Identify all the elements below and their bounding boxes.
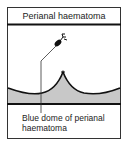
- haematoma-icon: [53, 34, 67, 48]
- label-line-1: Blue dome of perianal: [22, 113, 122, 123]
- annotation-label: Blue dome of perianal haematoma: [22, 113, 122, 133]
- label-line-2: haematoma: [22, 123, 122, 133]
- skin-surface-fill: [8, 72, 120, 104]
